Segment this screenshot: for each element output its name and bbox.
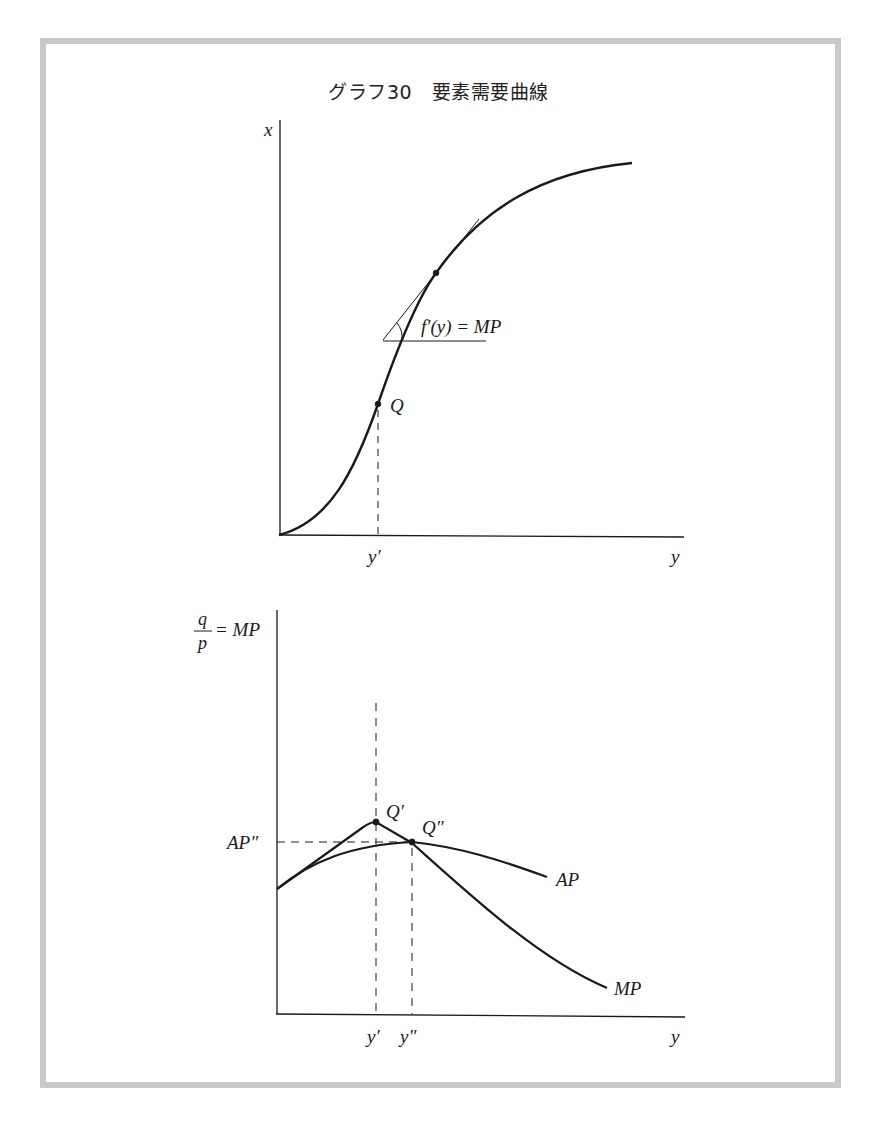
bottom-x-axis xyxy=(276,1014,685,1017)
q-point-label: Q xyxy=(390,395,404,416)
y-label-rest: = MP xyxy=(215,619,260,640)
q-prime-marker xyxy=(373,819,379,825)
q-double-prime-label: Q″ xyxy=(422,817,445,838)
y-label-numerator: q xyxy=(198,609,207,629)
tangent-slope-label: f′(y) = MP xyxy=(421,316,502,338)
bottom-y-axis-label: q p = MP xyxy=(194,609,260,653)
tangent-point-marker xyxy=(433,270,439,276)
q-prime-label: Q′ xyxy=(386,801,405,822)
ap-level-label: AP″ xyxy=(225,832,259,853)
top-x-axis-label: y xyxy=(669,546,680,567)
y-label-denominator: p xyxy=(196,633,207,653)
ap-curve-label: AP xyxy=(554,869,580,890)
q-double-prime-marker xyxy=(409,839,415,845)
bottom-x-axis-label: y xyxy=(669,1026,680,1047)
q-point-marker xyxy=(375,401,381,407)
bottom-chart xyxy=(276,610,685,1017)
top-y-axis-label: x xyxy=(263,119,273,140)
tick-label-y-double-prime: y″ xyxy=(398,1026,417,1047)
mp-curve-label: MP xyxy=(613,978,642,999)
total-product-curve xyxy=(279,163,632,535)
top-tick-label: y′ xyxy=(366,546,381,567)
tick-label-y-prime: y′ xyxy=(365,1026,380,1047)
top-x-axis xyxy=(279,535,684,537)
diagram-canvas: x y y′ Q f′(y) = MP q p = MP AP″ Q′ Q″ A… xyxy=(0,0,877,1125)
